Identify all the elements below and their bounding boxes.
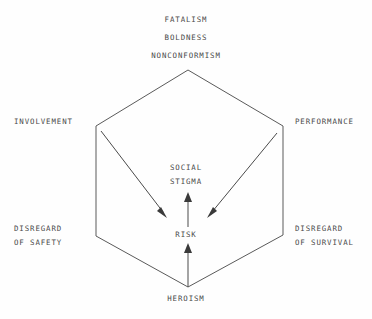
arrow-heroism-to-risk: [184, 243, 192, 287]
label-heroism: HEROISM: [0, 292, 372, 306]
label-nonconformism: NONCONFORMISM: [0, 49, 372, 63]
arrow-risk-to-social-stigma: [184, 192, 192, 227]
label-involvement: INVOLVEMENT: [14, 115, 73, 129]
label-risk: RISK: [0, 228, 372, 242]
hexagon-figure: [0, 0, 372, 319]
diagram-canvas: FATALISM BOLDNESS NONCONFORMISM INVOLVEM…: [0, 0, 372, 319]
label-social-stigma: SOCIAL STIGMA: [0, 161, 372, 189]
label-fatalism: FATALISM: [0, 13, 372, 27]
label-performance: PERFORMANCE: [295, 115, 354, 129]
label-boldness: BOLDNESS: [0, 31, 372, 45]
